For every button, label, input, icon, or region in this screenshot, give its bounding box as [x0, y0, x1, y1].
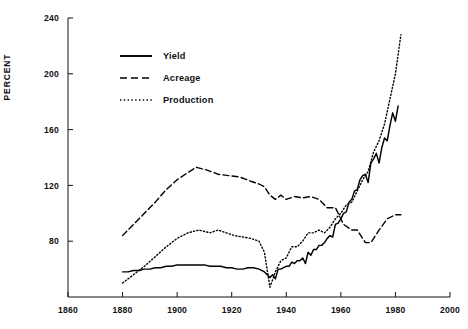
- y-tick-label: 120: [44, 181, 59, 191]
- y-tick-label: 80: [49, 236, 59, 246]
- chart-axes: [68, 18, 450, 297]
- x-tick-label: 1880: [113, 305, 133, 315]
- chart-legend: YieldAcreageProduction: [120, 51, 214, 105]
- x-tick-label: 1960: [331, 305, 351, 315]
- x-tick-label: 1920: [222, 305, 242, 315]
- y-axis-tick-labels: 80120160200240: [44, 13, 59, 246]
- legend-label-production: Production: [163, 95, 214, 105]
- y-axis-ticks: [68, 18, 73, 241]
- x-tick-label: 1980: [385, 305, 405, 315]
- legend-label-acreage: Acreage: [163, 73, 201, 83]
- x-tick-label: 1940: [276, 305, 296, 315]
- x-axis-ticks: [68, 292, 450, 297]
- x-tick-label: 1860: [58, 305, 78, 315]
- series-line-acreage: [123, 167, 401, 242]
- y-tick-label: 240: [44, 13, 59, 23]
- x-axis-tick-labels: 18601880190019201940196019802000: [58, 305, 460, 315]
- x-tick-label: 2000: [440, 305, 460, 315]
- chart-figure: PERCENT 80120160200240 18601880190019201…: [0, 0, 468, 329]
- legend-label-yield: Yield: [163, 51, 186, 61]
- x-tick-label: 1900: [167, 305, 187, 315]
- line-chart-plot: 80120160200240 1860188019001920194019601…: [0, 0, 468, 329]
- y-tick-label: 160: [44, 125, 59, 135]
- y-tick-label: 200: [44, 69, 59, 79]
